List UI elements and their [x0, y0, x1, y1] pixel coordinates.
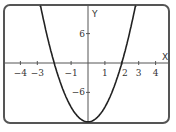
- x-tick-label: 1: [102, 68, 108, 78]
- x-tick-label: −1: [64, 68, 77, 78]
- y-axis-label: Y: [91, 9, 98, 19]
- parabola-chart: X Y −4−3−11234 6−6: [0, 0, 176, 132]
- x-tick-label: −4: [14, 68, 28, 78]
- x-axis-label: X: [162, 52, 168, 62]
- x-ticks: −4−3−11234: [14, 61, 159, 78]
- x-tick-label: 2: [122, 68, 128, 78]
- y-tick-label: 6: [79, 29, 85, 39]
- x-tick-label: 3: [136, 68, 142, 78]
- x-tick-label: −3: [31, 68, 45, 78]
- y-tick-label: −6: [72, 87, 86, 97]
- x-tick-label: 4: [153, 68, 159, 78]
